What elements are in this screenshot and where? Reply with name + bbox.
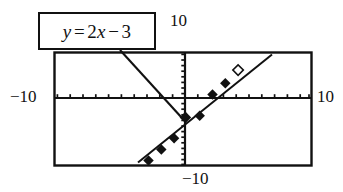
axis-label-bottom: −10	[182, 170, 209, 187]
equation-coefficient: 2	[87, 21, 97, 42]
equation-constant: 3	[122, 21, 132, 42]
axis-label-top: 10	[170, 12, 187, 29]
equation-callout-box: y=2x−3	[38, 12, 156, 50]
equation-label: y=2x−3	[63, 22, 132, 41]
axis-label-right: 10	[317, 88, 334, 105]
equation-minus: −	[106, 21, 122, 42]
axis-label-left: −10	[10, 88, 37, 105]
y-axis-ticks	[181, 54, 185, 164]
equation-equals: =	[71, 21, 87, 42]
figure-canvas: y=2x−3 10 −10 10 −10	[0, 0, 343, 192]
equation-variable: x	[97, 21, 106, 42]
